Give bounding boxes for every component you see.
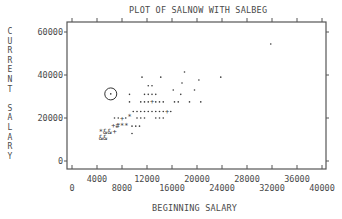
y-tick-label: 20000 bbox=[37, 113, 63, 123]
data-point bbox=[144, 111, 146, 113]
data-point bbox=[159, 111, 161, 113]
data-point bbox=[151, 85, 153, 87]
y-tick-label: 0 bbox=[58, 156, 63, 166]
data-point bbox=[172, 89, 174, 91]
data-point bbox=[189, 101, 191, 103]
x-axis-ticks: 4000120002000028000360000800016000240003… bbox=[69, 18, 334, 193]
data-point bbox=[140, 111, 142, 113]
plot-frame bbox=[67, 22, 326, 169]
data-point bbox=[131, 125, 133, 127]
x-tick-label: 16000 bbox=[159, 183, 185, 193]
y-tick-label: 40000 bbox=[37, 70, 63, 80]
data-point bbox=[131, 133, 133, 135]
x-tick-label: 40000 bbox=[309, 183, 335, 193]
data-point bbox=[162, 111, 164, 113]
data-point: + bbox=[150, 98, 154, 106]
y-axis-ticks: 0200004000060000 bbox=[37, 27, 329, 166]
data-point bbox=[174, 101, 176, 103]
data-point bbox=[155, 111, 157, 113]
data-point bbox=[184, 71, 186, 73]
data-point bbox=[125, 117, 127, 119]
y-tick-label: 60000 bbox=[37, 27, 63, 37]
data-point bbox=[198, 79, 200, 81]
x-tick-label: 8000 bbox=[112, 183, 132, 193]
data-point bbox=[170, 111, 172, 113]
data-point bbox=[144, 101, 146, 103]
data-point bbox=[155, 94, 157, 96]
plot-border bbox=[67, 22, 326, 169]
data-point bbox=[151, 111, 153, 113]
data-points: +++*+#***&&+&& bbox=[99, 43, 272, 142]
data-point bbox=[140, 117, 142, 119]
data-point bbox=[147, 111, 149, 113]
x-tick-label: 20000 bbox=[184, 174, 210, 184]
data-point bbox=[181, 82, 183, 84]
scatter-plot: 0200004000060000 40001200020000280003600… bbox=[0, 0, 342, 219]
data-point bbox=[270, 43, 272, 45]
data-point bbox=[144, 117, 146, 119]
x-tick-label: 4000 bbox=[87, 174, 107, 184]
chart-title: PLOT OF SALNOW WITH SALBEG bbox=[128, 5, 268, 15]
data-point bbox=[132, 111, 134, 113]
x-tick-label: 12000 bbox=[134, 174, 160, 184]
data-point bbox=[155, 101, 157, 103]
data-point bbox=[129, 101, 131, 103]
data-point: * bbox=[124, 122, 128, 130]
data-point bbox=[110, 93, 112, 95]
x-tick-label: 24000 bbox=[209, 183, 235, 193]
data-point bbox=[180, 94, 182, 96]
x-tick-label: 0 bbox=[69, 183, 74, 193]
data-point bbox=[136, 117, 138, 119]
data-point bbox=[147, 101, 149, 103]
data-point bbox=[129, 94, 131, 96]
data-point: * bbox=[127, 113, 131, 121]
data-point bbox=[155, 117, 157, 119]
data-point bbox=[140, 101, 142, 103]
data-point bbox=[114, 117, 116, 119]
data-point bbox=[141, 76, 143, 78]
data-point bbox=[220, 76, 222, 78]
data-point bbox=[177, 101, 179, 103]
data-point bbox=[136, 111, 138, 113]
data-point bbox=[200, 101, 202, 103]
data-point bbox=[162, 117, 164, 119]
x-tick-label: 36000 bbox=[284, 174, 310, 184]
data-point bbox=[159, 101, 161, 103]
data-point bbox=[135, 125, 137, 127]
x-tick-label: 28000 bbox=[234, 174, 260, 184]
data-point bbox=[159, 117, 161, 119]
data-point bbox=[144, 94, 146, 96]
data-point bbox=[194, 89, 196, 91]
data-point bbox=[147, 85, 149, 87]
x-tick-label: 32000 bbox=[259, 183, 285, 193]
data-point bbox=[117, 117, 119, 119]
data-point bbox=[160, 76, 162, 78]
data-point bbox=[162, 101, 164, 103]
data-point bbox=[151, 94, 153, 96]
data-point: + bbox=[112, 128, 116, 136]
data-point bbox=[147, 94, 149, 96]
data-point: + bbox=[165, 108, 169, 116]
data-point bbox=[139, 125, 141, 127]
